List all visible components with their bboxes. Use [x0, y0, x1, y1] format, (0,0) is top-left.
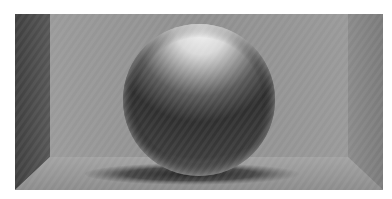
texture-overlay [15, 14, 383, 190]
scene-svg [15, 14, 383, 190]
rendered-scene [15, 14, 383, 190]
